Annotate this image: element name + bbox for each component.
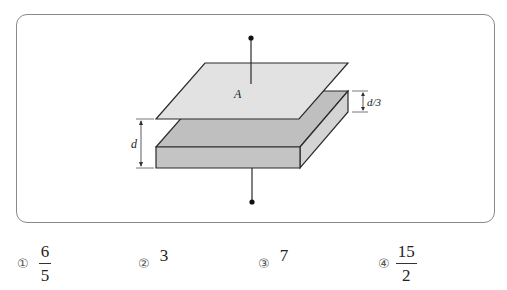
plate-area-label: A	[233, 87, 242, 101]
d3-arrow-down-icon	[361, 107, 365, 111]
choice-2-marker: ②	[138, 256, 150, 271]
d-arrow-down-icon	[139, 162, 143, 167]
top-terminal-dot	[248, 35, 253, 40]
choice-3-value: 7	[280, 246, 289, 266]
choice-1-denominator: 5	[41, 264, 50, 284]
choice-2[interactable]: ② 3	[138, 240, 168, 286]
choice-2-value: 3	[160, 246, 169, 266]
capacitor-diagram: A d/3 d	[0, 0, 507, 240]
plate-gap-label: d	[131, 137, 138, 151]
choice-4-marker: ④	[378, 256, 390, 271]
choice-4-fraction: 15 2	[396, 243, 417, 284]
choice-1-fraction: 6 5	[39, 243, 52, 284]
choice-1[interactable]: ① 6 5	[17, 240, 51, 286]
d-arrow-up-icon	[139, 120, 143, 125]
slab-offset-label: d/3	[367, 96, 382, 108]
slab-front-face	[156, 147, 300, 168]
choice-1-marker: ①	[17, 256, 29, 271]
bottom-terminal-dot	[249, 199, 254, 204]
choice-3[interactable]: ③ 7	[258, 240, 288, 286]
choice-4-denominator: 2	[402, 264, 411, 284]
choice-1-numerator: 6	[39, 243, 52, 264]
d3-arrow-up-icon	[361, 92, 365, 96]
choice-4[interactable]: ④ 15 2	[378, 240, 417, 286]
choice-3-marker: ③	[258, 256, 270, 271]
choice-4-numerator: 15	[396, 243, 417, 264]
